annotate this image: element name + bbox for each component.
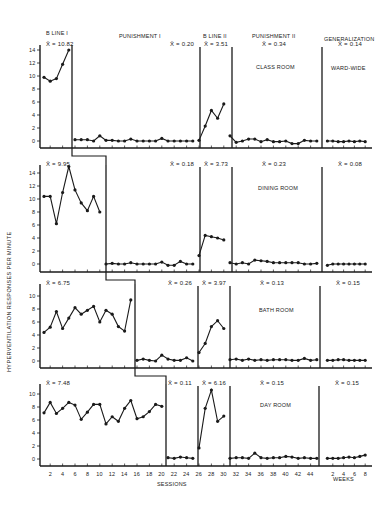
y-tick-label: 8 bbox=[32, 404, 35, 410]
phase-mean-label: X̄ = 3.51 bbox=[204, 41, 228, 47]
y-tick-label: 10 bbox=[29, 391, 36, 397]
setting-label-day-room: DAY ROOM bbox=[260, 402, 291, 408]
setting-label-ward-wide: WARD-WIDE bbox=[331, 65, 366, 71]
x-tick-label-session: 44 bbox=[307, 471, 314, 477]
y-tick-label: 2 bbox=[32, 125, 35, 131]
x-tick-label-session: 10 bbox=[96, 471, 103, 477]
x-tick-label-session: 16 bbox=[134, 471, 141, 477]
setting-label-bath-room: BATH ROOM bbox=[259, 307, 294, 313]
y-tick-label: 0 bbox=[32, 138, 35, 144]
phase-mean-label: X̄ = 7.48 bbox=[46, 380, 70, 386]
y-tick-label: 6 bbox=[32, 222, 35, 228]
phase-mean-label: X̄ = 6.16 bbox=[202, 380, 226, 386]
phase-mean-label: X̄ = 9.95 bbox=[46, 161, 70, 167]
phase-mean-label: X̄ = 0.15 bbox=[336, 280, 360, 286]
x-tick-label-session: 26 bbox=[196, 471, 203, 477]
x-tick-label-week: 2 bbox=[331, 471, 334, 477]
x-tick-label-session: 6 bbox=[74, 471, 77, 477]
phase-mean-label: X̄ = 0.20 bbox=[170, 41, 194, 47]
x-tick-label-session: 8 bbox=[86, 471, 89, 477]
phase-mean-label: X̄ = 0.08 bbox=[338, 161, 362, 167]
x-tick-label-session: 34 bbox=[245, 471, 252, 477]
x-tick-label-session: 30 bbox=[220, 471, 227, 477]
x-tick-label-session: 20 bbox=[158, 471, 165, 477]
x-tick-label-session: 32 bbox=[233, 471, 240, 477]
y-tick-label: 0 bbox=[32, 358, 35, 364]
y-tick-label: 2 bbox=[32, 248, 35, 254]
x-tick-label-session: 14 bbox=[121, 471, 128, 477]
y-tick-label: 0 bbox=[32, 261, 35, 267]
x-tick-label-session: 28 bbox=[208, 471, 215, 477]
y-tick-label: 12 bbox=[29, 60, 36, 66]
phase-mean-label: X̄ = 0.18 bbox=[170, 161, 194, 167]
x-tick-label-session: 12 bbox=[109, 471, 116, 477]
setting-label-class-room: CLASS ROOM bbox=[256, 64, 295, 70]
phase-mean-label: X̄ = 0.11 bbox=[168, 380, 192, 386]
setting-label-dining-room: DINING ROOM bbox=[258, 185, 298, 191]
phase-mean-label: X̄ = 3.73 bbox=[204, 161, 228, 167]
y-tick-label: 8 bbox=[32, 86, 35, 92]
y-tick-label: 8 bbox=[32, 209, 35, 215]
phase-label-bline-1: B LINE I bbox=[46, 30, 68, 36]
y-tick-label: 10 bbox=[29, 196, 36, 202]
y-tick-label: 8 bbox=[32, 306, 35, 312]
phase-mean-label: X̄ = 0.34 bbox=[262, 41, 286, 47]
y-tick-label: 14 bbox=[29, 170, 36, 176]
y-tick-label: 14 bbox=[29, 47, 36, 53]
x-tick-label-session: 2 bbox=[49, 471, 52, 477]
phase-mean-label: X̄ = 6.75 bbox=[46, 280, 70, 286]
y-tick-label: 0 bbox=[32, 456, 35, 462]
phase-mean-label: X̄ = 0.23 bbox=[262, 161, 286, 167]
x-axis-label-sessions: SESSIONS bbox=[157, 481, 187, 487]
phase-mean-label: X̄ = 0.26 bbox=[168, 280, 192, 286]
x-tick-label-session: 4 bbox=[61, 471, 64, 477]
phase-mean-label: X̄ = 0.15 bbox=[260, 380, 284, 386]
x-tick-label-session: 24 bbox=[183, 471, 190, 477]
y-tick-label: 10 bbox=[29, 293, 36, 299]
y-tick-label: 2 bbox=[32, 443, 35, 449]
y-axis-label: HYPERVENTILATION RESPONSES PER MINUTE bbox=[6, 231, 12, 372]
y-tick-label: 6 bbox=[32, 319, 35, 325]
phase-mean-label: X̄ = 0.14 bbox=[338, 41, 362, 47]
y-tick-label: 4 bbox=[32, 235, 35, 241]
y-tick-label: 6 bbox=[32, 99, 35, 105]
phase-mean-label: X̄ = 0.15 bbox=[335, 380, 359, 386]
phase-mean-label: X̄ = 10.82 bbox=[46, 41, 74, 47]
x-tick-label-session: 40 bbox=[282, 471, 289, 477]
phase-mean-label: X̄ = 3.97 bbox=[202, 280, 226, 286]
x-tick-label-session: 42 bbox=[295, 471, 302, 477]
y-tick-label: 10 bbox=[29, 73, 36, 79]
x-tick-label-session: 38 bbox=[270, 471, 277, 477]
y-tick-label: 4 bbox=[32, 112, 35, 118]
y-tick-label: 12 bbox=[29, 183, 36, 189]
x-tick-label-session: 18 bbox=[146, 471, 153, 477]
x-tick-label-week: 8 bbox=[364, 471, 367, 477]
x-tick-label-week: 6 bbox=[353, 471, 356, 477]
y-tick-label: 2 bbox=[32, 345, 35, 351]
phase-mean-label: X̄ = 0.13 bbox=[260, 280, 284, 286]
y-tick-label: 4 bbox=[32, 430, 35, 436]
multiple-baseline-figure bbox=[0, 0, 392, 508]
y-tick-label: 4 bbox=[32, 332, 35, 338]
phase-label-punishment-2: PUNISHMENT II bbox=[252, 33, 295, 39]
phase-label-bline-2: B LINE II bbox=[203, 33, 227, 39]
x-tick-label-session: 36 bbox=[258, 471, 265, 477]
phase-label-punishment-1: PUNISHMENT I bbox=[119, 33, 161, 39]
y-tick-label: 6 bbox=[32, 417, 35, 423]
x-tick-label-session: 22 bbox=[171, 471, 178, 477]
x-tick-label-week: 4 bbox=[342, 471, 345, 477]
